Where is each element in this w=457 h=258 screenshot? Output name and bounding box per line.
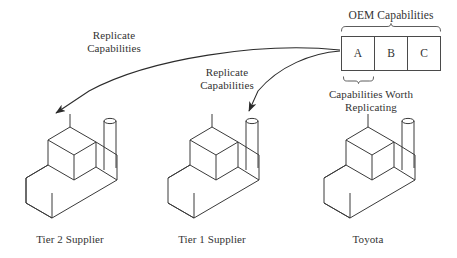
factory-label-toyota: Toyota [308,233,428,246]
diagram-canvas: OEM Capabilities A B C Capabilities Wort… [0,0,457,258]
oem-cell-c-label: C [407,47,441,59]
oem-capabilities-label: OEM Capabilities [341,9,441,23]
factory-label-tier-2-supplier: Tier 2 Supplier [10,233,130,246]
smokestack-icon [104,118,116,170]
oem-top-brace [342,24,441,32]
capabilities-worth-replicating-label: Capabilities Worth Replicating [296,88,446,114]
factory-tier-2-supplier [26,114,117,218]
factory-toyota [324,114,415,218]
oem-cell-a-label: A [341,47,375,59]
diagram-vector-layer [0,0,457,258]
factory-tier-1-supplier [168,114,259,218]
replicate-capabilities-label-tier2: Replicate Capabilities [78,29,150,55]
smokestack-icon [402,118,414,170]
smokestack-icon [246,118,258,170]
factory-label-tier-1-supplier: Tier 1 Supplier [152,233,272,246]
capabilities-worth-replicating-brace [344,77,374,84]
oem-cell-b-label: B [374,47,408,59]
replicate-capabilities-label-tier1: Replicate Capabilities [191,66,263,92]
